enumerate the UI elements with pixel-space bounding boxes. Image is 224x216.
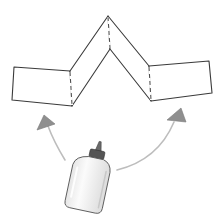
arrow-right-shaft <box>117 122 174 170</box>
right-slope-panel <box>108 16 151 101</box>
arrow-left-shaft <box>48 126 65 160</box>
arrow-left-head-icon <box>37 115 55 130</box>
bottle-body <box>64 154 112 215</box>
glue-bottle-icon <box>64 137 116 214</box>
left-slope-panel <box>70 16 110 106</box>
folding-diagram <box>0 0 224 216</box>
right-flap <box>149 61 212 101</box>
left-flap <box>12 67 72 106</box>
arrow-right-head-icon <box>167 108 186 122</box>
